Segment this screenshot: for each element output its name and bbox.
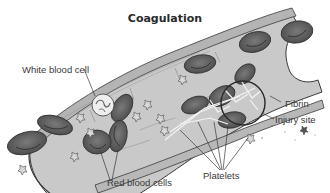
label-platelets: Platelets — [203, 171, 239, 181]
label-fibrin: Fibrin — [285, 99, 309, 109]
label-white-blood-cell: White blood cell — [22, 65, 89, 75]
coagulation-diagram: Coagulation White blood cell Fibrin Inju… — [0, 0, 330, 193]
blood-vessel-illustration — [0, 0, 330, 193]
label-injury-site: Injury site — [275, 115, 316, 125]
label-red-blood-cells: Red blood cells — [107, 178, 172, 188]
diagram-title: Coagulation — [0, 12, 330, 25]
white-blood-cell — [92, 94, 114, 116]
blood-vessel — [28, 8, 324, 193]
